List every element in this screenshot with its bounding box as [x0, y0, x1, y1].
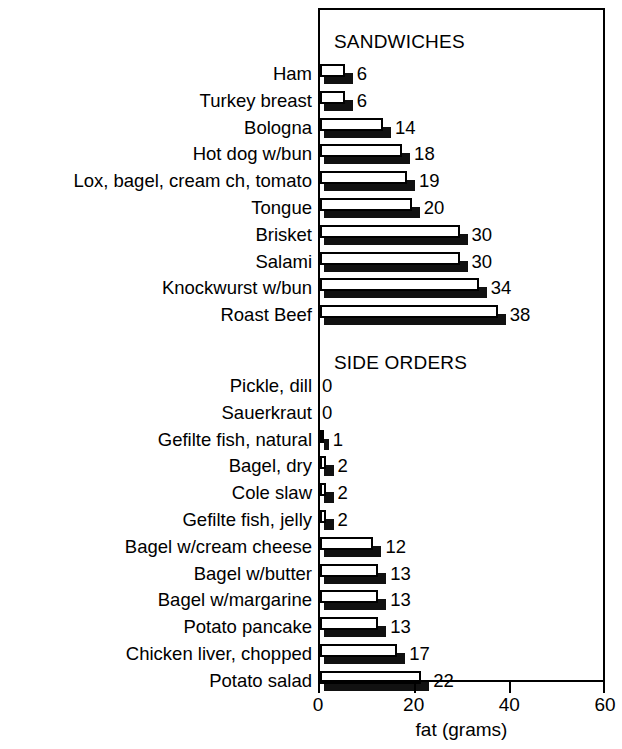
- bar-value-label: 13: [390, 563, 411, 584]
- bar-row: Gefilte fish, jelly2: [0, 509, 622, 536]
- bar-row: Turkey breast6: [0, 90, 622, 117]
- bar-row: Tongue20: [0, 197, 622, 224]
- bar-face: [320, 144, 402, 157]
- bar-row: Salami30: [0, 251, 622, 278]
- bar-row: Roast Beef38: [0, 304, 622, 331]
- bar-value-label: 34: [491, 277, 512, 298]
- bar-face: [320, 537, 373, 550]
- x-axis-tick: [414, 682, 416, 693]
- bar-category-label: Brisket: [0, 224, 312, 246]
- bar-category-label: Gefilte fish, jelly: [0, 509, 312, 531]
- bar-category-label: Lox, bagel, cream ch, tomato: [0, 170, 312, 192]
- x-axis-tick-label: 40: [489, 694, 529, 716]
- bar-category-label: Bagel w/cream cheese: [0, 536, 312, 558]
- bar-face: [320, 225, 460, 238]
- bar-value-label: 1: [333, 429, 343, 450]
- bar-value-label: 2: [338, 509, 348, 530]
- fat-grams-bar-chart: SANDWICHES SIDE ORDERS Ham6Turkey breast…: [0, 0, 622, 749]
- bar-face: [320, 483, 326, 496]
- bar-value-label: 17: [409, 643, 430, 664]
- bar-face: [320, 430, 324, 443]
- bar-value-label: 18: [414, 143, 435, 164]
- bar-face: [320, 617, 378, 630]
- x-axis-tick: [509, 682, 511, 693]
- bar-row: Potato salad22: [0, 670, 622, 697]
- x-axis-line: [318, 680, 605, 682]
- bar-face: [320, 91, 345, 104]
- bar-category-label: Turkey breast: [0, 90, 312, 112]
- bar-row: Cole slaw2: [0, 482, 622, 509]
- bar-row: Hot dog w/bun18: [0, 143, 622, 170]
- bar-category-label: Chicken liver, chopped: [0, 643, 312, 665]
- bar-value-label: 6: [357, 90, 367, 111]
- bar-row: Pickle, dill0: [0, 375, 622, 402]
- section-title-sandwiches: SANDWICHES: [334, 31, 465, 53]
- bar-face: [320, 564, 378, 577]
- bar-row: Knockwurst w/bun34: [0, 277, 622, 304]
- bar-category-label: Sauerkraut: [0, 402, 312, 424]
- bar-value-label: 2: [338, 482, 348, 503]
- bar-face: [320, 118, 383, 131]
- bar-category-label: Cole slaw: [0, 482, 312, 504]
- bar-shadow: [324, 439, 329, 450]
- x-axis-tick-label: 0: [298, 694, 338, 716]
- bar-row: Bologna14: [0, 117, 622, 144]
- bar-row: Bagel, dry2: [0, 455, 622, 482]
- bar-category-label: Gefilte fish, natural: [0, 429, 312, 451]
- bar-row: Ham6: [0, 63, 622, 90]
- bar-face: [320, 510, 326, 523]
- bar-value-label: 30: [472, 251, 493, 272]
- bar-category-label: Bagel, dry: [0, 455, 312, 477]
- x-axis-title: fat (grams): [318, 719, 605, 741]
- bar-value-label: 14: [395, 117, 416, 138]
- bar-row: Potato pancake13: [0, 616, 622, 643]
- bar-row: Brisket30: [0, 224, 622, 251]
- bar-face: [320, 644, 397, 657]
- section-title-side-orders: SIDE ORDERS: [334, 352, 467, 374]
- bar-category-label: Knockwurst w/bun: [0, 277, 312, 299]
- bar-category-label: Salami: [0, 251, 312, 273]
- bar-face: [320, 278, 479, 291]
- bar-category-label: Bagel w/margarine: [0, 589, 312, 611]
- bar-category-label: Hot dog w/bun: [0, 143, 312, 165]
- bar-category-label: Potato salad: [0, 670, 312, 692]
- bar-value-label: 0: [322, 402, 332, 423]
- bar-category-label: Bologna: [0, 117, 312, 139]
- bar-category-label: Pickle, dill: [0, 375, 312, 397]
- x-axis-tick-label: 60: [585, 694, 622, 716]
- x-axis-tick: [318, 682, 320, 693]
- bar-value-label: 38: [510, 304, 531, 325]
- bar-value-label: 0: [322, 375, 332, 396]
- bar-value-label: 13: [390, 616, 411, 637]
- bar-row: Gefilte fish, natural1: [0, 429, 622, 456]
- bar-row: Bagel w/butter13: [0, 563, 622, 590]
- bar-value-label: 6: [357, 63, 367, 84]
- bar-face: [320, 64, 345, 77]
- bar-value-label: 12: [385, 536, 406, 557]
- bar-row: Bagel w/margarine13: [0, 589, 622, 616]
- bar-category-label: Roast Beef: [0, 304, 312, 326]
- bar-face: [320, 456, 326, 469]
- bar-row: Lox, bagel, cream ch, tomato19: [0, 170, 622, 197]
- bar-row: Sauerkraut0: [0, 402, 622, 429]
- bar-face: [320, 590, 378, 603]
- bar-face: [320, 252, 460, 265]
- bar-face: [320, 198, 412, 211]
- x-axis-tick-label: 20: [394, 694, 434, 716]
- bar-category-label: Potato pancake: [0, 616, 312, 638]
- x-axis-tick: [603, 682, 605, 693]
- bar-value-label: 30: [472, 224, 493, 245]
- bar-value-label: 2: [338, 455, 348, 476]
- bar-value-label: 13: [390, 589, 411, 610]
- bar-face: [320, 171, 407, 184]
- bar-category-label: Ham: [0, 63, 312, 85]
- bar-row: Bagel w/cream cheese12: [0, 536, 622, 563]
- bar-value-label: 20: [424, 197, 445, 218]
- bar-face: [320, 305, 498, 318]
- bar-value-label: 19: [419, 170, 440, 191]
- bar-row: Chicken liver, chopped17: [0, 643, 622, 670]
- bar-category-label: Tongue: [0, 197, 312, 219]
- bar-category-label: Bagel w/butter: [0, 563, 312, 585]
